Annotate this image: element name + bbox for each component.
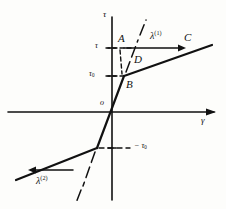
elastic-extension-lower-dashed-2	[76, 190, 81, 203]
point-label-a: A	[118, 33, 125, 44]
x-axis-label: γ	[201, 116, 205, 125]
origin-label: o	[100, 99, 104, 107]
slope-label-lambda2-sup: (2)	[40, 174, 47, 181]
elastic-extension-upper-dashed-2	[140, 20, 146, 35]
figure-container: τ γ o τ τ0 − τ0 A B C D λ(1) λ(2)	[0, 0, 226, 209]
tick-label-tau0-sub: 0	[92, 72, 95, 78]
tick-label-tau: τ	[95, 42, 98, 50]
elastic-extension-lower-dashed	[83, 152, 95, 186]
y-axis-label: τ	[103, 10, 106, 19]
tick-label-neg-tau0: − τ0	[134, 142, 147, 150]
x-axis-arrow-head	[206, 108, 216, 115]
slope-label-lambda1-sup: (1)	[154, 29, 161, 36]
lambda2-arrow-head	[28, 167, 36, 174]
hardening-branch-compression	[16, 148, 97, 180]
lambda1-arrow-head	[178, 45, 186, 52]
slope-label-lambda1: λ(1)	[150, 30, 162, 41]
slope-label-lambda2: λ(2)	[36, 175, 48, 186]
point-label-c: C	[184, 32, 191, 43]
tick-label-tau0: τ0	[89, 70, 94, 78]
tick-label-neg-tau0-base: − τ	[134, 141, 144, 150]
stress-strain-plot	[0, 0, 226, 209]
unloading-path-dashed	[120, 50, 122, 74]
point-label-b: B	[126, 79, 133, 90]
point-label-d: D	[134, 54, 142, 65]
tick-label-neg-tau0-sub: 0	[144, 144, 147, 150]
